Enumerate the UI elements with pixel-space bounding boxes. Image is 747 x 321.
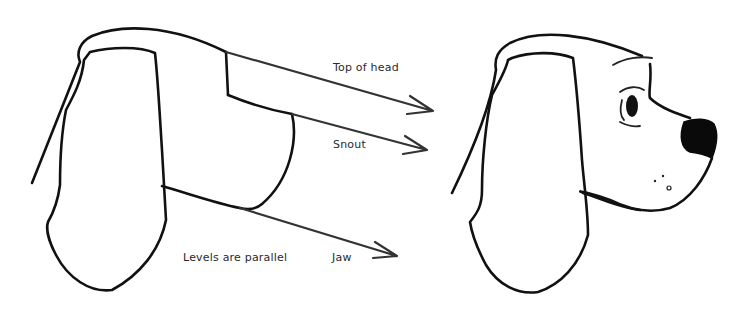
finished-dog-head xyxy=(452,35,716,293)
dog-brow xyxy=(613,57,652,65)
jaw-edge xyxy=(162,186,240,208)
diagram-svg xyxy=(0,0,747,321)
whisker-dot xyxy=(662,175,664,177)
whisker-dot xyxy=(667,186,671,190)
dog-ear xyxy=(470,53,588,292)
snout-front-curve xyxy=(240,114,294,209)
drawing-canvas: Top of head Snout Jaw Levels are paralle… xyxy=(0,0,747,321)
top-box-edge xyxy=(226,52,228,95)
label-snout: Snout xyxy=(333,138,366,151)
label-levels-note: Levels are parallel xyxy=(183,251,287,264)
label-top-of-head: Top of head xyxy=(333,61,399,74)
snout-top-edge xyxy=(228,95,292,114)
dog-nose xyxy=(681,119,716,158)
label-jaw: Jaw xyxy=(332,251,352,264)
dog-chin xyxy=(580,158,712,211)
ear-outline xyxy=(47,48,166,290)
dog-head-top xyxy=(452,35,642,193)
dog-forehead xyxy=(649,64,690,118)
whisker-dot xyxy=(654,180,656,182)
arrows xyxy=(226,52,433,258)
dog-eye xyxy=(626,95,638,117)
